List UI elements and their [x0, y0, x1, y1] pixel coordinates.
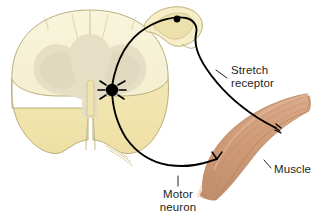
spinal-cord-cross-section [12, 10, 169, 166]
label-stretch-receptor-line2: receptor [231, 77, 274, 89]
leader-line-muscle [264, 160, 271, 168]
label-motor-neuron-line2: neuron [160, 201, 196, 213]
label-muscle-line1: Muscle [274, 163, 311, 175]
label-stretch-receptor-line1: Stretch [231, 64, 268, 76]
skeletal-muscle [196, 92, 311, 200]
label-stretch-receptor: Stretch receptor [231, 64, 274, 89]
sensory-neuron-cell-body [174, 16, 181, 23]
reflex-arc-illustration: Stretch receptor Motor neuron Muscle [0, 0, 312, 220]
label-muscle: Muscle [274, 163, 311, 175]
label-motor-neuron-line1: Motor [163, 188, 193, 200]
motor-neuron-cell-body [106, 84, 118, 96]
label-motor-neuron: Motor neuron [160, 188, 196, 213]
central-canal [87, 80, 94, 116]
reflex-arc-figure: Stretch receptor Motor neuron Muscle [0, 0, 312, 220]
leader-line-stretch-receptor [216, 70, 227, 78]
